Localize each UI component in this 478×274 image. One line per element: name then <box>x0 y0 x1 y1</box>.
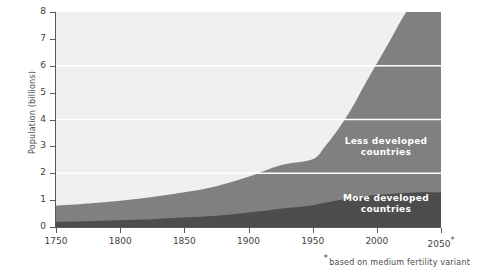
y-tick-mark-6 <box>50 66 55 67</box>
x-tick-label-2000: 2000 <box>353 236 401 246</box>
x-tick-label-1900: 1900 <box>225 236 273 246</box>
chart-footnote: *based on medium fertility variant <box>238 253 470 267</box>
y-tick-mark-3 <box>50 146 55 147</box>
series-label-more-developed-line1: More developed <box>343 193 429 203</box>
y-tick-mark-0 <box>50 227 55 228</box>
y-tick-mark-5 <box>50 93 55 94</box>
x-tick-label-1750: 1750 <box>32 236 80 246</box>
y-tick-mark-7 <box>50 39 55 40</box>
series-label-more-developed-line2: countries <box>361 204 411 214</box>
footnote-text: based on medium fertility variant <box>329 258 470 267</box>
y-tick-label-6: 6 <box>30 61 46 70</box>
y-tick-label-7: 7 <box>30 34 46 43</box>
x-tick-mark-1800 <box>120 228 121 233</box>
y-tick-mark-1 <box>50 200 55 201</box>
y-tick-mark-8 <box>50 12 55 13</box>
y-tick-label-1: 1 <box>30 195 46 204</box>
y-tick-mark-4 <box>50 120 55 121</box>
x-tick-mark-1950 <box>313 228 314 233</box>
y-tick-label-5: 5 <box>30 88 46 97</box>
y-tick-label-8: 8 <box>30 7 46 16</box>
x-tick-label-asterisk: * <box>450 236 454 245</box>
x-tick-mark-1850 <box>184 228 185 233</box>
x-tick-label-1950: 1950 <box>289 236 337 246</box>
y-tick-label-0: 0 <box>30 222 46 231</box>
x-tick-label-1800: 1800 <box>96 236 144 246</box>
series-label-less-developed-line2: countries <box>361 147 411 157</box>
x-tick-mark-2050 <box>441 228 442 233</box>
x-tick-label-2050: 2050* <box>417 236 465 249</box>
y-tick-label-4: 4 <box>30 115 46 124</box>
series-label-less-developed: Less developed countries <box>330 136 442 158</box>
y-tick-mark-2 <box>50 173 55 174</box>
population-area-chart: Population (billions) 012345678 17501800… <box>0 0 478 274</box>
x-tick-mark-1750 <box>56 228 57 233</box>
series-label-more-developed: More developed countries <box>330 193 442 215</box>
x-tick-label-1850: 1850 <box>160 236 208 246</box>
series-label-less-developed-line1: Less developed <box>345 136 428 146</box>
x-tick-mark-2000 <box>377 228 378 233</box>
y-tick-label-2: 2 <box>30 168 46 177</box>
y-tick-label-3: 3 <box>30 141 46 150</box>
x-tick-mark-1900 <box>249 228 250 233</box>
